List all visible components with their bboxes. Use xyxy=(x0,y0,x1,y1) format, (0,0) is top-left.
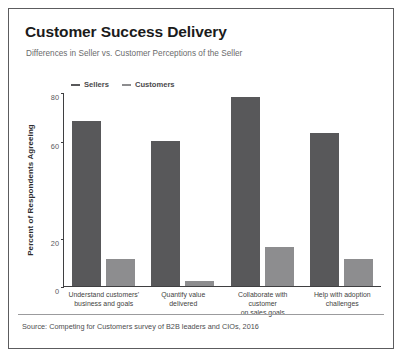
bar-sellers[interactable] xyxy=(310,133,339,286)
bar-group xyxy=(302,93,381,286)
y-tick-mark xyxy=(61,142,64,143)
legend-swatch-customers xyxy=(122,84,131,86)
y-tick-label: 60 xyxy=(51,141,59,150)
x-axis-line xyxy=(63,286,381,287)
y-tick-label: 0 xyxy=(55,287,59,296)
plot-area: 0206080 xyxy=(63,93,381,287)
bar-pair xyxy=(64,93,143,286)
chart-subtitle: Differences in Seller vs. Customer Perce… xyxy=(26,49,242,58)
bar-customers[interactable] xyxy=(185,281,214,286)
legend-swatch-sellers xyxy=(71,84,80,86)
bar-group xyxy=(64,93,143,286)
y-tick-mark xyxy=(61,239,64,240)
y-tick-label: 20 xyxy=(51,238,59,247)
bar-sellers[interactable] xyxy=(72,121,101,286)
bar-customers[interactable] xyxy=(106,259,135,286)
footer-divider xyxy=(18,314,384,315)
y-tick-label: 80 xyxy=(51,93,59,102)
bar-sellers[interactable] xyxy=(151,141,180,287)
legend-item-sellers[interactable]: Sellers xyxy=(71,80,109,89)
chart-card: Customer Success Delivery Differences in… xyxy=(8,8,394,349)
y-axis-label: Percent of Respondents Agreeing xyxy=(25,93,36,287)
legend-label-customers: Customers xyxy=(135,80,175,89)
chart-legend: Sellers Customers xyxy=(71,80,175,89)
source-note: Source: Competing for Customers survey o… xyxy=(22,322,259,331)
bar-pair xyxy=(223,93,302,286)
bar-groups xyxy=(64,93,381,286)
y-tick-mark xyxy=(61,287,64,288)
legend-item-customers[interactable]: Customers xyxy=(122,80,175,89)
y-tick-mark xyxy=(61,93,64,94)
bar-customers[interactable] xyxy=(344,259,373,286)
bar-pair xyxy=(143,93,222,286)
bar-customers[interactable] xyxy=(265,247,294,286)
bar-pair xyxy=(302,93,381,286)
bar-group xyxy=(223,93,302,286)
bar-sellers[interactable] xyxy=(231,97,260,286)
page-title: Customer Success Delivery xyxy=(25,23,227,41)
legend-label-sellers: Sellers xyxy=(84,80,109,89)
bar-group xyxy=(143,93,222,286)
